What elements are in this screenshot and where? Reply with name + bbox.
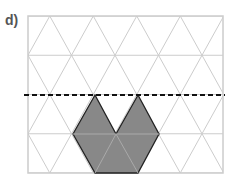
- triangle-grid-diagram: [0, 0, 229, 178]
- figure: d): [0, 0, 229, 178]
